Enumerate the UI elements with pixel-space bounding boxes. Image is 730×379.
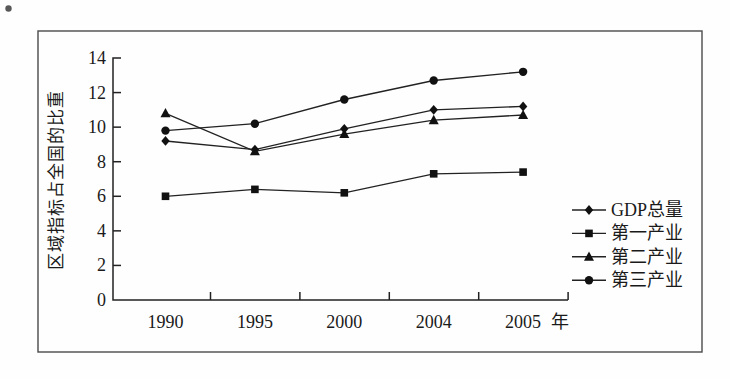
square-marker-icon: [585, 230, 593, 238]
triangle-marker-icon: [518, 110, 528, 119]
axes: [113, 58, 568, 300]
y-tick-label: 14: [88, 48, 106, 68]
square-marker-icon: [430, 170, 438, 178]
circle-marker-icon: [340, 95, 348, 103]
diamond-marker-icon: [161, 136, 169, 146]
y-tick-label: 12: [88, 83, 106, 103]
legend-label: GDP总量: [611, 200, 683, 220]
legend-item: 第二产业: [572, 247, 683, 267]
legend-item: 第一产业: [572, 223, 683, 243]
x-tick-label: 1990: [148, 312, 184, 332]
diamond-marker-icon: [430, 105, 438, 115]
x-tick-label: 2004: [416, 312, 452, 332]
square-marker-icon: [519, 168, 527, 176]
legend-item: 第三产业: [572, 270, 683, 290]
diamond-marker-icon: [585, 205, 593, 215]
x-tick-label: 2000: [326, 312, 362, 332]
circle-marker-icon: [161, 126, 169, 134]
y-tick-label: 4: [97, 221, 106, 241]
series-triangle: [161, 108, 529, 155]
figure-border: [38, 31, 702, 352]
square-marker-icon: [251, 186, 259, 194]
series-square: [162, 168, 527, 200]
square-marker-icon: [162, 192, 170, 200]
y-tick-label: 8: [97, 152, 106, 172]
circle-marker-icon: [585, 276, 593, 284]
triangle-marker-icon: [161, 108, 171, 117]
legend-label: 第一产业: [611, 223, 683, 243]
circle-marker-icon: [519, 68, 527, 76]
y-tick-label: 10: [88, 117, 106, 137]
x-tick-label: 2005: [505, 312, 541, 332]
circle-marker-icon: [430, 76, 438, 84]
figure-frame: 0246810121419901995200020042005年区域指标占全国的…: [0, 0, 730, 379]
legend-label: 第三产业: [611, 270, 683, 290]
axis-lines: [113, 58, 568, 300]
legend-item: GDP总量: [572, 200, 683, 220]
square-marker-icon: [341, 189, 349, 197]
y-axis-title: 区域指标占全国的比重: [47, 90, 66, 270]
series-diamond: [161, 102, 527, 155]
legend-label: 第二产业: [611, 247, 683, 267]
legend: GDP总量第一产业第二产业第三产业: [572, 200, 683, 290]
circle-marker-icon: [251, 119, 259, 127]
scan-artifact-dot: [5, 5, 11, 11]
x-axis-unit-label: 年: [551, 312, 569, 332]
y-tick-label: 0: [97, 290, 106, 310]
y-tick-label: 6: [97, 186, 106, 206]
line-chart: 0246810121419901995200020042005年区域指标占全国的…: [0, 0, 730, 379]
x-tick-label: 1995: [237, 312, 273, 332]
y-tick-label: 2: [97, 255, 106, 275]
